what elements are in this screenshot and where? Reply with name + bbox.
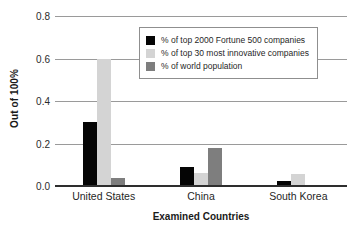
y-axis-title-text: Out of 100%	[9, 69, 20, 128]
bar-group	[55, 16, 152, 186]
legend-item: % of top 30 most innovative companies	[146, 47, 309, 59]
x-tick-label: United States	[72, 190, 135, 202]
legend-item: % of world population	[146, 60, 309, 72]
legend-swatch-icon	[146, 62, 155, 71]
x-axis-title: Examined Countries	[55, 211, 347, 222]
bar	[97, 59, 111, 187]
legend-item: % of top 2000 Fortune 500 companies	[146, 34, 309, 46]
bar	[208, 148, 222, 186]
y-tick-label: 0.2	[36, 138, 50, 149]
legend-swatch-icon	[146, 36, 155, 45]
bar	[180, 167, 194, 186]
y-tick-label: 0.4	[36, 96, 50, 107]
legend-label: % of world population	[161, 62, 242, 71]
y-tick-label: 0.8	[36, 11, 50, 22]
x-tick-label: China	[187, 190, 214, 202]
x-tick-label: South Korea	[269, 190, 327, 202]
legend-swatch-icon	[146, 49, 155, 58]
bar-chart: Out of 100% 0.00.20.40.60.8 United State…	[0, 0, 357, 235]
x-axis-tick-labels: United StatesChinaSouth Korea	[55, 190, 347, 208]
bar	[83, 122, 97, 186]
legend-label: % of top 30 most innovative companies	[161, 49, 309, 58]
y-axis-tick-labels: 0.00.20.40.60.8	[24, 0, 52, 196]
y-axis-title: Out of 100%	[2, 0, 26, 196]
legend-label: % of top 2000 Fortune 500 companies	[161, 36, 305, 45]
y-tick-label: 0.0	[36, 181, 50, 192]
x-axis-baseline	[55, 185, 347, 187]
legend: % of top 2000 Fortune 500 companies% of …	[139, 27, 318, 79]
y-tick-label: 0.6	[36, 53, 50, 64]
